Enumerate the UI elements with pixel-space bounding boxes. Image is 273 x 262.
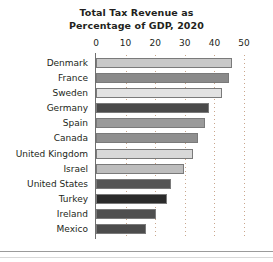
y-label-ireland: Ireland (0, 207, 92, 222)
plot-area (96, 55, 244, 237)
y-label-israel: Israel (0, 161, 92, 176)
x-axis-tick-labels: 01020304050 (0, 38, 273, 52)
bar-united-kingdom (96, 149, 193, 159)
y-axis-category-labels: DenmarkFranceSwedenGermanySpainCanadaUni… (0, 55, 92, 237)
x-tick-label-10: 10 (120, 38, 131, 48)
bar-united-states (96, 179, 171, 189)
bar-row (96, 176, 244, 191)
bar-canada (96, 133, 198, 143)
bar-israel (96, 164, 184, 174)
bar-spain (96, 118, 205, 128)
footer-divider-secondary (0, 257, 273, 258)
bar-row (96, 191, 244, 206)
bar-ireland (96, 209, 156, 219)
x-tick-label-0: 0 (93, 38, 99, 48)
y-label-spain: Spain (0, 116, 92, 131)
bar-denmark (96, 58, 232, 68)
gridline-50 (244, 55, 245, 237)
bar-row (96, 131, 244, 146)
y-label-mexico: Mexico (0, 222, 92, 237)
bar-rows (96, 55, 244, 237)
chart-figure: Total Tax Revenue as Percentage of GDP, … (0, 0, 273, 262)
bar-germany (96, 103, 209, 113)
bar-row (96, 146, 244, 161)
y-label-turkey: Turkey (0, 191, 92, 206)
y-label-france: France (0, 70, 92, 85)
y-label-denmark: Denmark (0, 55, 92, 70)
bar-row (96, 55, 244, 70)
bar-row (96, 116, 244, 131)
bar-sweden (96, 88, 222, 98)
chart-title-line-2: Percentage of GDP, 2020 (0, 20, 273, 33)
y-label-united-kingdom: United Kingdom (0, 146, 92, 161)
bar-row (96, 222, 244, 237)
bar-mexico (96, 224, 146, 234)
y-label-united-states: United States (0, 176, 92, 191)
bar-row (96, 70, 244, 85)
chart-title: Total Tax Revenue as Percentage of GDP, … (0, 7, 273, 32)
y-label-sweden: Sweden (0, 85, 92, 100)
bar-row (96, 161, 244, 176)
x-tick-label-40: 40 (209, 38, 220, 48)
y-label-canada: Canada (0, 131, 92, 146)
x-tick-label-50: 50 (238, 38, 249, 48)
y-label-germany: Germany (0, 100, 92, 115)
footer-divider (0, 251, 273, 252)
bar-row (96, 85, 244, 100)
bar-row (96, 207, 244, 222)
chart-title-line-1: Total Tax Revenue as (0, 7, 273, 20)
bar-row (96, 100, 244, 115)
x-tick-label-30: 30 (179, 38, 190, 48)
bar-turkey (96, 194, 167, 204)
bar-france (96, 73, 229, 83)
x-tick-label-20: 20 (149, 38, 160, 48)
